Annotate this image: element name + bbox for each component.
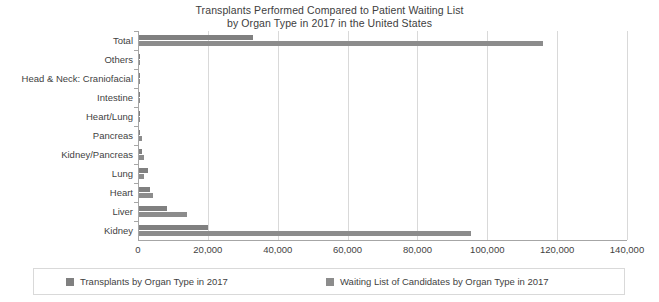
x-axis-tick-label: 100,000 [470, 244, 504, 255]
bar-waiting-list [139, 231, 471, 236]
gridline [348, 31, 349, 240]
legend-item-transplants[interactable]: Transplants by Organ Type in 2017 [66, 276, 228, 288]
bar-waiting-list [139, 79, 140, 84]
category-label: Head & Neck: Craniofacial [22, 73, 133, 84]
y-axis-tick [134, 145, 138, 146]
bar-transplants [139, 168, 148, 173]
chart-title-line-2: by Organ Type in 2017 in the United Stat… [0, 17, 659, 30]
bar-transplants [139, 111, 140, 116]
bar-transplants [139, 130, 140, 135]
category-label: Heart [110, 187, 133, 198]
bar-transplants [139, 187, 150, 192]
legend-label-waiting-list: Waiting List of Candidates by Organ Type… [340, 276, 549, 288]
bar-waiting-list [139, 117, 140, 122]
bar-transplants [139, 206, 167, 211]
y-axis-tick [134, 69, 138, 70]
gridline [208, 31, 209, 240]
chart-legend: Transplants by Organ Type in 2017 Waitin… [33, 268, 625, 295]
bar-waiting-list [139, 155, 144, 160]
bar-transplants [139, 92, 140, 97]
gridline [627, 31, 628, 240]
gridline [278, 31, 279, 240]
chart-title-line-1: Transplants Performed Compared to Patien… [0, 4, 659, 17]
x-axis-line [138, 240, 627, 241]
gridline [557, 31, 558, 240]
y-axis-tick [134, 183, 138, 184]
x-axis-tick-label: 40,000 [263, 244, 292, 255]
x-axis-tick-label: 140,000 [610, 244, 644, 255]
category-label: Others [104, 54, 133, 65]
bar-transplants [139, 54, 140, 59]
category-label: Pancreas [93, 130, 133, 141]
legend-label-transplants: Transplants by Organ Type in 2017 [80, 276, 228, 288]
legend-swatch-waiting-list [326, 278, 334, 286]
x-axis-tick-label: 0 [135, 244, 140, 255]
x-axis-tick-label: 20,000 [193, 244, 222, 255]
bar-transplants [139, 73, 140, 78]
bar-waiting-list [139, 41, 543, 46]
category-label: Intestine [97, 92, 133, 103]
chart-title: Transplants Performed Compared to Patien… [0, 4, 659, 30]
bar-waiting-list [139, 174, 144, 179]
x-axis-tick-label: 60,000 [333, 244, 362, 255]
bar-transplants [139, 149, 142, 154]
gridline [417, 31, 418, 240]
category-label: Heart/Lung [86, 111, 133, 122]
category-label: Kidney/Pancreas [61, 149, 133, 160]
bar-waiting-list [139, 193, 153, 198]
category-label: Kidney [104, 225, 133, 236]
category-label: Lung [112, 168, 133, 179]
legend-swatch-transplants [66, 278, 74, 286]
chart-container: Transplants Performed Compared to Patien… [0, 0, 659, 302]
bar-waiting-list [139, 212, 187, 217]
y-axis-tick [134, 164, 138, 165]
y-axis-tick [134, 50, 138, 51]
plot-area [138, 31, 627, 240]
bar-waiting-list [139, 60, 140, 65]
bar-transplants [139, 225, 208, 230]
y-axis-tick [134, 107, 138, 108]
y-axis-tick [134, 126, 138, 127]
bar-transplants [139, 35, 253, 40]
y-axis-tick [134, 88, 138, 89]
gridline [487, 31, 488, 240]
x-axis-tick-label: 80,000 [403, 244, 432, 255]
bar-waiting-list [139, 136, 142, 141]
legend-item-waiting-list[interactable]: Waiting List of Candidates by Organ Type… [326, 276, 549, 288]
y-axis-tick [134, 202, 138, 203]
y-axis-tick [134, 31, 138, 32]
bar-waiting-list [139, 98, 140, 103]
y-axis-tick [134, 221, 138, 222]
x-axis-tick-label: 120,000 [540, 244, 574, 255]
category-label: Liver [112, 206, 133, 217]
category-label: Total [113, 35, 133, 46]
